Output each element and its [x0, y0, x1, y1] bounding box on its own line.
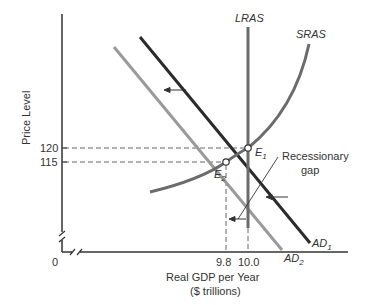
x-axis-title-line2: ($ trillions)	[190, 285, 241, 297]
recessionary-gap-label-line2: gap	[301, 164, 319, 176]
y-tick-label-120: 120	[40, 142, 58, 154]
e1-label-sub: 1	[262, 152, 266, 161]
recessionary-gap-label-line1: Recessionary	[282, 150, 349, 162]
ad1-label-main: AD	[311, 237, 327, 249]
e2-label-sub: 2	[220, 174, 226, 183]
ad1-label: AD1	[311, 237, 332, 252]
y-tick-label-115: 115	[40, 156, 58, 168]
lras-label: LRAS	[235, 12, 264, 24]
ad2-label-main: AD	[283, 252, 299, 264]
e2-point	[223, 159, 229, 165]
arrow-gap-head	[229, 217, 235, 222]
x-tick-label-9-8: 9.8	[216, 256, 231, 268]
x-tick-label-10-0: 10.0	[238, 256, 259, 268]
reference-lines	[64, 148, 248, 252]
sras-label: SRAS	[296, 28, 327, 40]
ad2-label: AD2	[283, 252, 304, 267]
e1-point	[245, 145, 251, 151]
x-axis-title-line1: Real GDP per Year	[166, 271, 260, 283]
y-axis-title: Price Level	[20, 91, 32, 145]
recessionary-gap-pointer	[238, 157, 278, 219]
e2-label: E2	[214, 168, 226, 183]
economics-diagram: LRAS SRAS AD1 AD2 E1 E2 Recessionary gap…	[0, 0, 366, 305]
ad1-curve	[140, 37, 310, 243]
origin-label: 0	[52, 256, 58, 268]
e1-label: E1	[255, 146, 267, 161]
axes	[59, 14, 348, 255]
arrow-lower-head	[266, 195, 272, 200]
ad2-label-sub: 2	[298, 258, 304, 267]
ad1-label-sub: 1	[327, 243, 331, 252]
arrow-upper-head	[164, 88, 170, 93]
